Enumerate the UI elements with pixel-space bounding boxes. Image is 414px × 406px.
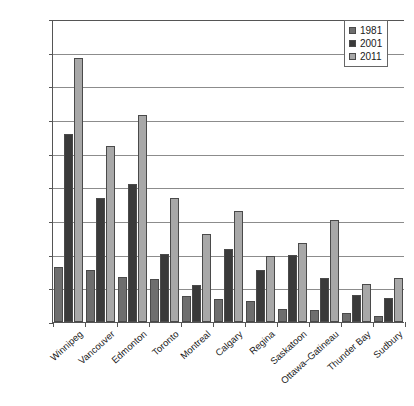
- bar: [202, 234, 211, 322]
- bar: [384, 298, 393, 322]
- bar: [214, 299, 223, 322]
- bar-group: [149, 20, 181, 322]
- bar: [352, 295, 361, 322]
- x-tick-mark: [149, 322, 150, 327]
- bar: [182, 296, 191, 322]
- bar: [86, 270, 95, 322]
- legend-label-2001: 2001: [360, 39, 382, 49]
- x-axis-label: Sudbury: [372, 329, 405, 360]
- x-tick-mark: [245, 322, 246, 327]
- x-axis-label: Toronto: [151, 329, 181, 357]
- bar: [362, 284, 371, 322]
- bar: [96, 198, 105, 322]
- x-axis-labels: WinnipegVancouverEdmontonTorontoMontreal…: [52, 329, 404, 406]
- bar: [138, 115, 147, 322]
- x-tick-mark: [85, 322, 86, 327]
- bar-group: [85, 20, 117, 322]
- bar: [246, 301, 255, 322]
- bar-group: [244, 20, 276, 322]
- legend-entry-2011: 2011: [349, 50, 382, 63]
- bar: [150, 279, 159, 322]
- bar: [160, 254, 169, 322]
- bar-group: [181, 20, 213, 322]
- x-tick-mark: [53, 322, 54, 327]
- x-axis-label: Edmonton: [110, 329, 149, 365]
- bar: [298, 243, 307, 322]
- bar: [374, 316, 383, 322]
- bar: [74, 58, 83, 322]
- bar-group: [53, 20, 85, 322]
- bar-group: [213, 20, 245, 322]
- bar: [278, 309, 287, 322]
- x-tick-mark: [213, 322, 214, 327]
- bar: [64, 134, 73, 322]
- bar: [394, 278, 403, 322]
- bar: [310, 310, 319, 322]
- bar: [266, 256, 275, 322]
- x-tick-mark: [341, 322, 342, 327]
- chart-legend: 1981 2001 2011: [344, 20, 388, 67]
- bar: [320, 278, 329, 322]
- x-axis-label: Calgary: [214, 329, 245, 358]
- x-axis-label: Montreal: [179, 329, 213, 361]
- x-axis-label: Regina: [248, 329, 277, 356]
- x-tick-mark: [309, 322, 310, 327]
- bar: [128, 184, 137, 322]
- x-tick-mark: [373, 322, 374, 327]
- x-tick-mark: [181, 322, 182, 327]
- bar: [224, 249, 233, 322]
- x-tick-mark: [405, 322, 406, 327]
- bar: [106, 146, 115, 322]
- bar-group: [308, 20, 340, 322]
- bar: [118, 277, 127, 322]
- bar: [192, 285, 201, 322]
- legend-swatch-icon-2011: [349, 53, 356, 60]
- legend-entry-2001: 2001: [349, 37, 382, 50]
- legend-swatch-icon-1981: [349, 27, 356, 34]
- bar-group: [276, 20, 308, 322]
- legend-label-2011: 2011: [360, 52, 382, 62]
- bar: [234, 211, 243, 322]
- legend-label-1981: 1981: [360, 26, 382, 36]
- bar: [54, 267, 63, 322]
- legend-swatch-icon-2001: [349, 40, 356, 47]
- bar: [342, 313, 351, 322]
- bar: [256, 270, 265, 322]
- x-tick-mark: [117, 322, 118, 327]
- bar-group: [117, 20, 149, 322]
- bar-chart: 90,00080,00070,00060,00050,00040,00030,0…: [0, 0, 414, 406]
- bar: [330, 220, 339, 322]
- legend-entry-1981: 1981: [349, 24, 382, 37]
- bar: [170, 198, 179, 322]
- x-tick-mark: [277, 322, 278, 327]
- bar: [288, 255, 297, 322]
